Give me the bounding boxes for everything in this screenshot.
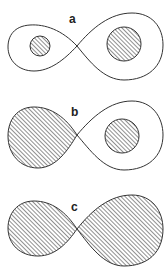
panel-c: c (8, 195, 163, 266)
figure-eight-diagram: a b c (0, 0, 167, 272)
left-inner-disk (30, 36, 50, 56)
right-lobe (77, 195, 163, 266)
panel-label: c (71, 200, 78, 214)
panel-a: a (8, 12, 163, 80)
left-lobe (8, 107, 77, 168)
right-inner-disk (107, 27, 141, 61)
panel-label: b (71, 105, 78, 119)
panel-label: a (69, 12, 76, 26)
left-lobe (8, 201, 77, 256)
panel-b: b (8, 101, 163, 170)
right-inner-disk (105, 119, 139, 153)
